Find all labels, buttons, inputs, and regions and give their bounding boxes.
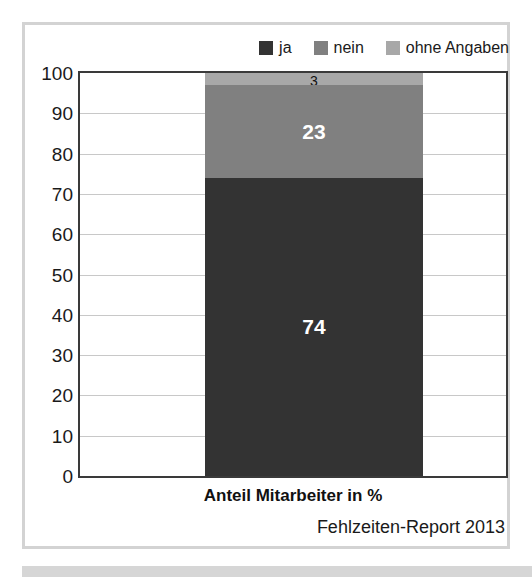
y-axis-tick-20: 20 [27,386,73,405]
y-axis-tick-70: 70 [27,184,73,203]
y-axis-tick-0: 0 [27,467,73,486]
y-axis-tick-30: 30 [27,346,73,365]
y-axis-tick-90: 90 [27,104,73,123]
y-axis-tick-100: 100 [27,64,73,83]
chart-figure-frame: ja nein ohne Angaben 0102030405060708090… [22,22,510,549]
bar-segment-nein[interactable]: 23 [205,85,423,178]
bottom-decorative-band [22,566,532,577]
bar-segment-ohne-angaben[interactable]: 3 [205,73,423,85]
bar-value-nein: 23 [302,121,325,142]
chart-figure-inner: ja nein ohne Angaben 0102030405060708090… [25,25,507,546]
source-note: Fehlzeiten-Report 2013 [317,517,505,538]
chart-plot-area: 3 23 74 [78,71,508,478]
bar-segment-ja[interactable]: 74 [205,178,423,476]
y-axis-tick-labels: 0102030405060708090100 [25,71,73,478]
bar-value-ja: 74 [302,316,325,337]
y-axis-tick-10: 10 [27,426,73,445]
x-axis-title: Anteil Mitarbeiter in % [78,486,508,506]
chart-plot-region: 0102030405060708090100 3 23 74 Anteil Mi… [25,25,513,552]
stacked-bar[interactable]: 3 23 74 [205,73,423,476]
y-axis-tick-40: 40 [27,305,73,324]
y-axis-tick-80: 80 [27,144,73,163]
y-axis-tick-50: 50 [27,265,73,284]
y-axis-tick-60: 60 [27,225,73,244]
